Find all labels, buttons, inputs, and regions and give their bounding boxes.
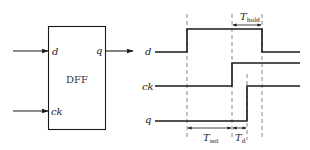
ck-signal-label: ck	[142, 81, 154, 92]
ck-input-label: ck	[51, 106, 63, 117]
hold-time-label: Thold	[240, 11, 260, 23]
dff-block: DFF d ck q	[13, 27, 133, 130]
q-output-label: q	[96, 45, 102, 56]
d-waveform	[155, 29, 300, 52]
dff-timing-diagram: DFF d ck q d ck q Thold Tset	[0, 0, 310, 150]
dff-label: DFF	[66, 74, 88, 85]
ck-waveform	[155, 63, 300, 86]
q-signal-label: q	[145, 114, 151, 125]
setup-time-label: Tset	[203, 132, 219, 144]
timing-waveforms: d ck q	[142, 14, 300, 140]
d-signal-label: d	[145, 46, 151, 57]
delay-time-label: Td	[235, 132, 246, 144]
q-waveform	[155, 86, 300, 121]
timing-annotations: Thold Tset Td	[188, 11, 261, 144]
d-input-label: d	[52, 46, 58, 57]
